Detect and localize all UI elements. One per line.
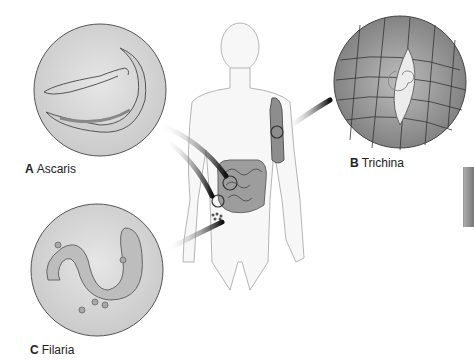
label-ascaris: AAscaris bbox=[25, 162, 76, 176]
panel-letter: A bbox=[25, 162, 34, 176]
panel-name: Ascaris bbox=[37, 162, 76, 176]
panel-name: Filaria bbox=[42, 343, 75, 357]
panel-letter: B bbox=[350, 156, 359, 170]
trichina-circle bbox=[334, 16, 466, 150]
panel-name: Trichina bbox=[362, 156, 404, 170]
ascaris-circle bbox=[34, 24, 166, 156]
arm-muscle bbox=[270, 98, 284, 163]
filaria-circle bbox=[31, 204, 163, 336]
page-edge-tab bbox=[463, 167, 474, 227]
human-body-outline bbox=[183, 23, 304, 290]
label-filaria: CFilaria bbox=[30, 343, 74, 357]
panel-letter: C bbox=[30, 343, 39, 357]
label-trichina: BTrichina bbox=[350, 156, 404, 170]
